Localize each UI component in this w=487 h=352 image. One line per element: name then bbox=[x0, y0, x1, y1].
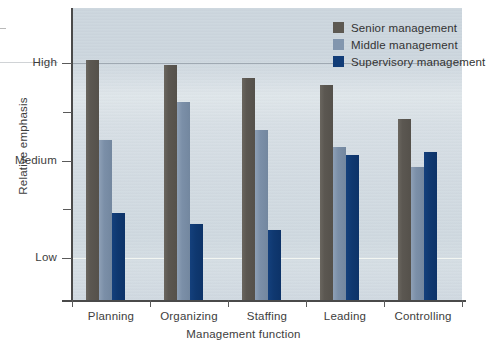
bar-leading-middle bbox=[333, 147, 346, 300]
bar-controlling-supervisory bbox=[424, 152, 437, 300]
bar-chart-figure: HighMediumLow PlanningOrganizingStaffing… bbox=[0, 0, 487, 352]
x-axis-label-staffing: Staffing bbox=[228, 310, 306, 322]
legend-label-senior: Senior management bbox=[351, 22, 457, 34]
y-tick-1 bbox=[62, 258, 72, 259]
legend-label-supervisory: Supervisory management bbox=[351, 56, 485, 68]
legend-swatch-middle bbox=[333, 39, 344, 50]
bar-organizing-senior bbox=[164, 65, 177, 300]
y-axis-title: Relative emphasis bbox=[17, 76, 29, 216]
legend-swatch-supervisory bbox=[333, 56, 344, 67]
bar-planning-senior bbox=[86, 60, 99, 300]
x-axis-line bbox=[62, 300, 466, 302]
bar-controlling-middle bbox=[411, 167, 424, 300]
legend-label-middle: Middle management bbox=[351, 39, 458, 51]
y-tick-3 bbox=[62, 63, 72, 64]
bar-organizing-middle bbox=[177, 102, 190, 300]
y-tick-1.5 bbox=[63, 209, 72, 210]
bar-leading-senior bbox=[320, 85, 333, 300]
x-axis-label-planning: Planning bbox=[72, 310, 150, 322]
scan-edge-mark bbox=[0, 28, 6, 29]
x-tick-4 bbox=[384, 300, 385, 307]
legend-item-senior: Senior management bbox=[333, 20, 485, 35]
bar-staffing-middle bbox=[255, 130, 268, 300]
y-axis-label-low: Low bbox=[5, 251, 57, 263]
x-tick-1 bbox=[150, 300, 151, 307]
x-axis-label-controlling: Controlling bbox=[384, 310, 462, 322]
x-axis-title: Management function bbox=[0, 328, 487, 340]
bar-controlling-senior bbox=[398, 119, 411, 300]
legend-swatch-senior bbox=[333, 22, 344, 33]
bar-planning-supervisory bbox=[112, 213, 125, 300]
legend: Senior managementMiddle managementSuperv… bbox=[333, 20, 485, 71]
y-axis-label-medium: Medium bbox=[5, 154, 57, 166]
x-axis-label-leading: Leading bbox=[306, 310, 384, 322]
bar-staffing-senior bbox=[242, 78, 255, 300]
bar-leading-supervisory bbox=[346, 155, 359, 300]
legend-item-supervisory: Supervisory management bbox=[333, 54, 485, 69]
bar-planning-middle bbox=[99, 140, 112, 300]
x-tick-3 bbox=[306, 300, 307, 307]
y-axis-label-high: High bbox=[5, 56, 57, 68]
legend-item-middle: Middle management bbox=[333, 37, 485, 52]
y-tick-2 bbox=[62, 161, 72, 162]
y-tick-2.5 bbox=[63, 112, 72, 113]
x-tick-2 bbox=[228, 300, 229, 307]
x-axis-label-organizing: Organizing bbox=[150, 310, 228, 322]
x-tick-0 bbox=[72, 300, 73, 307]
x-tick-5 bbox=[462, 300, 463, 307]
bar-organizing-supervisory bbox=[190, 224, 203, 300]
bar-staffing-supervisory bbox=[268, 230, 281, 300]
